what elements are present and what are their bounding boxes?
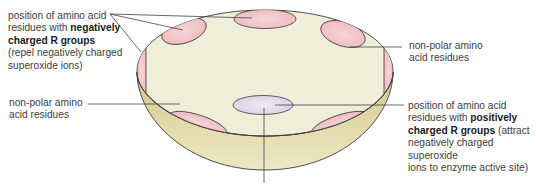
- label-line: ions to enzyme active site): [408, 162, 536, 174]
- negative-residue-patch-top: [234, 10, 296, 29]
- label-positive-residues: position of amino acid residues with pos…: [408, 100, 536, 174]
- label-bold-text: negatively: [70, 22, 120, 33]
- label-line: non-polar amino: [409, 40, 529, 52]
- label-line: acid residues: [9, 109, 119, 121]
- label-text: residues with: [8, 22, 70, 33]
- label-line: charged R groups: [8, 35, 158, 47]
- label-nonpolar-left: non-polar amino acid residues: [9, 97, 119, 122]
- label-bold-text: charged R groups: [408, 125, 495, 136]
- label-line: position of amino acid: [408, 100, 536, 112]
- label-bold-text: charged R groups: [8, 35, 95, 46]
- label-text: (attract: [495, 125, 530, 136]
- label-line: superoxide ions): [8, 60, 158, 72]
- label-line: non-polar amino: [9, 97, 119, 109]
- label-line: position of amino acid: [8, 10, 158, 22]
- label-bold-text: positively: [470, 112, 517, 123]
- label-line: charged R groups (attract: [408, 125, 536, 137]
- label-line: (repel negatively charged: [8, 47, 158, 59]
- label-line: residues with positively: [408, 112, 536, 124]
- label-negative-residues: position of amino acid residues with neg…: [8, 10, 158, 72]
- label-nonpolar-right: non-polar amino acid residues: [409, 40, 529, 65]
- label-line: acid residues: [409, 52, 529, 64]
- label-line: negatively charged superoxide: [408, 137, 536, 162]
- label-line: residues with negatively: [8, 22, 158, 34]
- label-text: residues with: [408, 112, 470, 123]
